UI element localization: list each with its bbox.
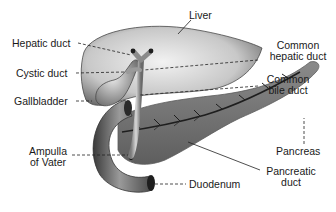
label-common-hepatic-duct-line2: hepatic duct xyxy=(262,51,334,62)
label-hepatic-duct: Hepatic duct xyxy=(12,38,70,49)
label-pancreatic-duct: Pancreatic duct xyxy=(258,166,324,188)
label-common-bile-duct-line2: bile duct xyxy=(256,85,320,96)
anatomy-diagram: Liver Hepatic duct Common hepatic duct C… xyxy=(0,0,336,212)
label-ampulla-line2: of Vater xyxy=(24,157,72,168)
label-cystic-duct: Cystic duct xyxy=(16,68,67,79)
label-common-hepatic-duct: Common hepatic duct xyxy=(262,40,334,62)
leader-pancreatic-duct xyxy=(188,142,260,170)
label-ampulla-of-vater: Ampulla of Vater xyxy=(24,146,72,168)
label-liver: Liver xyxy=(189,10,212,21)
label-pancreas: Pancreas xyxy=(276,146,320,157)
label-pancreatic-duct-line2: duct xyxy=(258,177,324,188)
label-duodenum: Duodenum xyxy=(189,179,240,190)
label-common-bile-duct: Common bile duct xyxy=(256,74,320,96)
label-gallbladder: Gallbladder xyxy=(14,96,68,107)
